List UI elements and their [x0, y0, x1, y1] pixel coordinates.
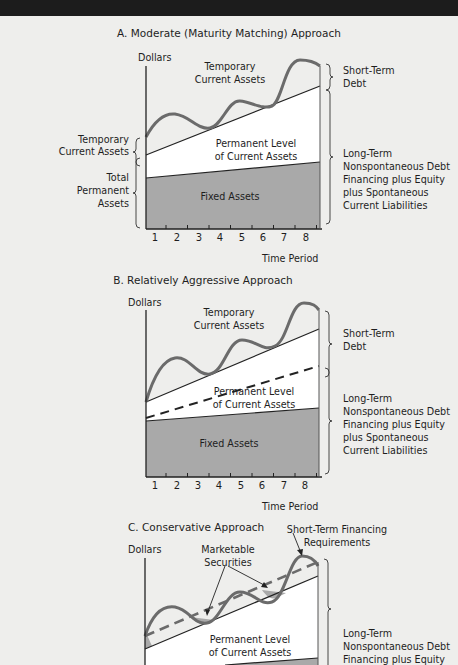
- panel-b-tick-label: 5: [238, 480, 244, 491]
- panel-c-right-long-term-3: Financing plus Equity: [343, 654, 445, 665]
- panel-b-right-long-term-1: Long-Term: [343, 393, 392, 404]
- panel-b-tick-label: 6: [259, 480, 265, 491]
- panel-a-left-brace-permanent: [133, 158, 140, 228]
- panel-b-temporary-label-2: Current Assets: [194, 320, 264, 331]
- panel-b-y-axis-label: Dollars: [128, 297, 161, 308]
- panel-a-left-brace-temporary: [133, 138, 140, 166]
- panel-a-tick-label: 4: [217, 232, 223, 243]
- panel-a-right-long-term-3: Financing plus Equity: [343, 174, 445, 185]
- panel-b-tick-label: 3: [195, 480, 201, 491]
- panel-b-right-brace-short-term: [325, 311, 332, 377]
- panel-a-fixed-assets-label: Fixed Assets: [200, 191, 259, 202]
- panel-b-right-long-term-2: Nonspontaneous Debt: [343, 406, 450, 417]
- panel-b-tick-label: 7: [281, 480, 287, 491]
- panel-a-left-total-3: Assets: [98, 198, 129, 209]
- panel-b-right-short-term-2: Debt: [343, 341, 366, 352]
- panel-c-marketable-label-1: Marketable: [201, 544, 255, 555]
- panel-a-title: A. Moderate (Maturity Matching) Approach: [117, 27, 341, 39]
- panel-a-tick-label: 3: [196, 232, 202, 243]
- panel-a-tick-label: 5: [239, 232, 245, 243]
- panel-a-left-temporary-1: Temporary: [77, 134, 129, 145]
- panel-b-tick-label: 2: [174, 480, 180, 491]
- panel-b-right-long-term-5: Current Liabilities: [343, 445, 427, 456]
- panel-b-tick-label: 1: [152, 480, 158, 491]
- panel-a-left-total-2: Permanent: [77, 185, 129, 196]
- panel-a-tick-label: 6: [260, 232, 266, 243]
- panel-b-title: B. Relatively Aggressive Approach: [113, 274, 293, 286]
- panel-a-right-long-term-2: Nonspontaneous Debt: [343, 161, 450, 172]
- panel-a: A. Moderate (Maturity Matching) Approach…: [59, 27, 450, 264]
- panel-a-tick-label: 1: [152, 232, 158, 243]
- panel-b: B. Relatively Aggressive Approach Dollar…: [113, 274, 450, 512]
- panel-a-y-axis-label: Dollars: [138, 52, 171, 63]
- panel-c-marketable-arrow-2: [228, 566, 266, 586]
- panel-c-marketable-label-2: Securities: [204, 557, 251, 568]
- panel-c: C. Conservative Approach Dollars Marketa…: [128, 521, 450, 665]
- panel-a-right-short-term-2: Debt: [343, 78, 366, 89]
- panel-a-temporary-label-1: Temporary: [204, 61, 256, 72]
- panel-a-right-long-term-4: plus Spontaneous: [343, 187, 429, 198]
- panel-a-tick-label: 8: [303, 232, 309, 243]
- panel-b-x-axis-label: Time Period: [261, 501, 318, 512]
- panel-a-tick-label: 7: [281, 232, 287, 243]
- panel-a-right-long-term-5: Current Liabilities: [343, 200, 427, 211]
- panel-a-left-temporary-2: Current Assets: [59, 146, 129, 157]
- panel-a-right-brace-long-term: [326, 90, 333, 224]
- panel-a-right-short-term-1: Short-Term: [343, 65, 395, 76]
- panel-b-fixed-assets-label: Fixed Assets: [199, 438, 258, 449]
- panel-c-short-term-req-label-2: Requirements: [304, 537, 371, 548]
- panel-c-y-axis-label: Dollars: [128, 544, 161, 555]
- panel-a-right-brace-short-term: [326, 64, 333, 90]
- panel-a-x-axis-label: Time Period: [261, 253, 318, 264]
- panel-b-right-short-term-1: Short-Term: [343, 328, 395, 339]
- panel-b-tick-label: 8: [302, 480, 308, 491]
- panel-c-right-brace-long-term: [324, 559, 331, 665]
- panel-b-right-long-term-4: plus Spontaneous: [343, 432, 429, 443]
- panel-a-left-total-1: Total: [106, 172, 129, 183]
- panel-c-marketable-arrowhead-1: [205, 609, 210, 616]
- panel-b-permanent-label-2: of Current Assets: [213, 399, 296, 410]
- panel-c-right-long-term-1: Long-Term: [343, 628, 392, 639]
- panel-a-right-long-term-1: Long-Term: [343, 148, 392, 159]
- panel-a-permanent-label-1: Permanent Level: [216, 138, 297, 149]
- panel-b-right-brace-long-term: [325, 368, 332, 474]
- panel-b-tick-label: 4: [216, 480, 222, 491]
- panel-c-permanent-label-1: Permanent Level: [210, 634, 291, 645]
- panel-a-tick-label: 2: [174, 232, 180, 243]
- panel-c-permanent-label-2: of Current Assets: [209, 647, 292, 658]
- panel-c-title: C. Conservative Approach: [128, 521, 264, 533]
- panel-c-short-term-req-label-1: Short-Term Financing: [287, 524, 387, 535]
- panel-b-temporary-label-1: Temporary: [203, 307, 255, 318]
- panel-c-right-long-term-2: Nonspontaneous Debt: [343, 641, 450, 652]
- panel-b-right-long-term-3: Financing plus Equity: [343, 419, 445, 430]
- panel-a-temporary-label-2: Current Assets: [195, 74, 265, 85]
- financing-policy-diagram: A. Moderate (Maturity Matching) Approach…: [0, 0, 458, 665]
- panel-a-permanent-label-2: of Current Assets: [215, 151, 298, 162]
- panel-b-permanent-label-1: Permanent Level: [214, 386, 295, 397]
